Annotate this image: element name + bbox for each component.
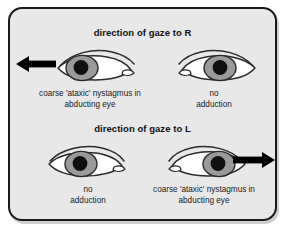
caption-bottom-right-line2: abducting eye — [134, 196, 274, 207]
figure-root: direction of gaze to R — [0, 0, 285, 229]
caption-top-right-line1: no — [162, 89, 266, 100]
caption-bottom-left: no adduction — [36, 185, 140, 206]
caption-bottom-right: coarse 'ataxic' nystagmus in abducting e… — [134, 185, 274, 206]
caption-top-left-line1: coarse 'ataxic' nystagmus in — [20, 89, 160, 100]
caption-bottom-left-line1: no — [36, 185, 140, 196]
top-left-eye — [55, 49, 137, 91]
caption-top-right-line2: adduction — [162, 100, 266, 111]
diagram-panel: direction of gaze to R — [8, 7, 277, 221]
caption-top-right: no adduction — [162, 89, 266, 110]
section-title-gaze-left: direction of gaze to L — [10, 123, 275, 134]
right-arrow-icon — [233, 150, 279, 174]
caption-bottom-left-line2: adduction — [36, 196, 140, 207]
diagram-panel-inner: direction of gaze to R — [10, 9, 275, 219]
bottom-left-eye — [46, 145, 128, 187]
caption-top-left: coarse 'ataxic' nystagmus in abducting e… — [20, 89, 160, 110]
section-title-gaze-right: direction of gaze to R — [10, 27, 275, 38]
caption-bottom-right-line1: coarse 'ataxic' nystagmus in — [134, 185, 274, 196]
top-right-eye — [176, 49, 258, 91]
caption-top-left-line2: abducting eye — [20, 100, 160, 111]
